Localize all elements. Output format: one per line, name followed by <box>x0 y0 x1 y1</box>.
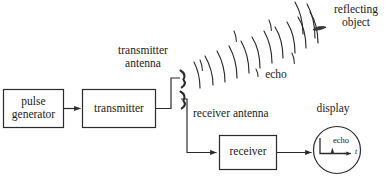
display-echo-label: echo <box>326 136 356 146</box>
receiver-antenna-icon[interactable] <box>181 92 185 109</box>
transmitter-label: transmitter <box>82 102 156 115</box>
wave-arc <box>194 62 200 88</box>
reflecting-object-icon[interactable] <box>313 26 326 30</box>
wave-arc <box>264 31 272 63</box>
wave-arc <box>205 56 213 85</box>
wave-tick <box>292 53 294 64</box>
wave-arc <box>217 51 225 82</box>
wave-tick <box>269 20 271 31</box>
wave-tick <box>200 60 202 71</box>
pulse-generator-label-line1: pulse <box>21 95 45 107</box>
echo-wave-label: echo <box>258 68 294 81</box>
pulse-generator-label-line2: generator <box>12 108 55 120</box>
receiver-label: receiver <box>219 145 277 158</box>
display-time-axis-label: t <box>352 148 360 157</box>
wave-tick <box>234 31 236 42</box>
transmitter-antenna-label-line2: antenna <box>125 57 161 69</box>
reflecting-object-label: reflecting object <box>327 3 385 29</box>
wave-arc <box>307 4 315 38</box>
pulse-generator-label: pulse generator <box>3 95 64 121</box>
display-label: display <box>311 102 355 115</box>
connector-transmitter-to-antenna <box>156 78 180 109</box>
reflecting-object-label-line2: object <box>342 16 370 28</box>
transmitter-antenna-icon[interactable] <box>181 71 185 88</box>
radar-block-diagram: pulse generator transmitter receiver tra… <box>0 0 387 176</box>
transmitter-antenna-label-line1: transmitter <box>118 44 168 56</box>
wave-arc <box>275 27 283 58</box>
reflecting-object-label-line1: reflecting <box>334 3 378 15</box>
wave-arc <box>241 41 249 73</box>
wave-arc <box>287 22 295 53</box>
wave-arc <box>252 37 260 68</box>
wave-arc-group <box>194 2 318 88</box>
transmitter-antenna-label: transmitter antenna <box>103 44 183 70</box>
wave-arc <box>229 46 237 78</box>
receiver-antenna-label: receiver antenna <box>193 107 288 120</box>
